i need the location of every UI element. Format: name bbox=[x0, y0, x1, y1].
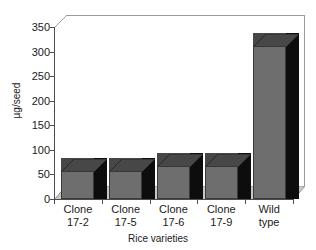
bar-top-face bbox=[109, 158, 142, 171]
bar-2 bbox=[109, 158, 155, 199]
bar-front-face bbox=[61, 171, 94, 200]
bar-front-face bbox=[109, 171, 142, 199]
y-axis-tick-label: 250 bbox=[22, 71, 50, 82]
bar-side-face bbox=[286, 33, 299, 199]
bar-4 bbox=[205, 153, 251, 199]
x-axis-category-label-line: Clone bbox=[197, 203, 245, 216]
y-axis-line bbox=[54, 27, 55, 199]
y-axis-tick-label: 100 bbox=[22, 144, 50, 155]
x-axis-category-label-line: 17-6 bbox=[150, 216, 198, 229]
x-axis-category-label-line: Wild bbox=[245, 203, 293, 216]
y-axis-tick-label: 150 bbox=[22, 120, 50, 131]
bar-top-face bbox=[253, 33, 286, 46]
bar-front-face bbox=[253, 46, 286, 199]
y-axis-title: µg/seed bbox=[11, 61, 22, 141]
bar-1 bbox=[61, 158, 107, 200]
x-axis-category-label-line: 17-5 bbox=[102, 216, 150, 229]
y-axis-tick-label: 350 bbox=[22, 22, 50, 33]
plot-depth-connector-icon bbox=[54, 15, 67, 28]
bar-5 bbox=[253, 33, 299, 199]
x-axis-category-label-line: Clone bbox=[102, 203, 150, 216]
y-axis-tick-label: 50 bbox=[22, 169, 50, 180]
bar-top-face bbox=[157, 153, 190, 166]
x-axis-category-label-line: 17-2 bbox=[54, 216, 102, 229]
x-axis-category-label: Wildtype bbox=[245, 203, 293, 229]
y-axis-tick-label: 200 bbox=[22, 95, 50, 106]
y-axis-tick-label: 300 bbox=[22, 46, 50, 57]
x-axis-category-label-line: type bbox=[245, 216, 293, 229]
bar-front-face bbox=[157, 166, 190, 199]
x-axis-category-label: Clone17-2 bbox=[54, 203, 102, 229]
x-axis-category-label-line: Clone bbox=[54, 203, 102, 216]
x-axis-category-label: Clone17-9 bbox=[197, 203, 245, 229]
x-axis-line bbox=[54, 199, 293, 200]
x-axis-category-label-line: 17-9 bbox=[197, 216, 245, 229]
bar-top-face bbox=[205, 153, 238, 166]
x-axis-category-label: Clone17-5 bbox=[102, 203, 150, 229]
x-axis-category-label: Clone17-6 bbox=[150, 203, 198, 229]
bar-front-face bbox=[205, 166, 238, 199]
bar-chart-figure: µg/seed 050100150200250300350 Clone17-2C… bbox=[0, 0, 316, 250]
bar-3 bbox=[157, 153, 203, 199]
x-axis-title: Rice varieties bbox=[0, 233, 316, 244]
x-axis-category-label-line: Clone bbox=[150, 203, 198, 216]
bar-top-face bbox=[61, 158, 94, 171]
x-axis-category-labels: Clone17-2Clone17-5Clone17-6Clone17-9Wild… bbox=[0, 203, 316, 235]
